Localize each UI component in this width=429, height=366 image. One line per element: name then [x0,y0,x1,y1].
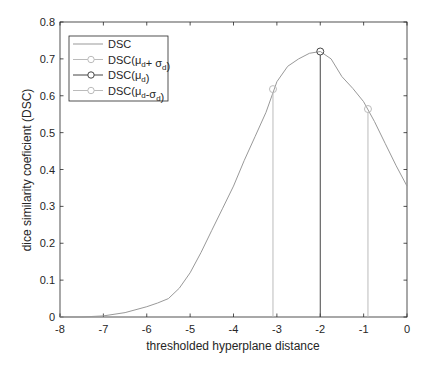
x-tick-label: 0 [404,323,410,335]
legend: DSCDSC(μd+ σd)DSC(μd)DSC(μd-σd) [69,36,170,103]
y-tick-label: 0.3 [40,200,55,212]
y-axis-label: dice similarity coeficient (DSC) [20,89,34,252]
y-tick-label: 0.6 [40,90,55,102]
y-tick-label: 0 [49,311,55,323]
y-tick-label: 0.7 [40,53,55,65]
legend-marker [88,87,94,93]
x-tick-label: -2 [315,323,325,335]
y-tick-label: 0.5 [40,127,55,139]
line-chart: -8-7-6-5-4-3-2-1000.10.20.30.40.50.60.70… [0,0,429,366]
x-tick-label: -8 [55,323,65,335]
legend-marker [88,56,94,62]
y-tick-label: 0.4 [40,164,55,176]
x-tick-label: -7 [98,323,108,335]
y-tick-label: 0.8 [40,16,55,28]
x-tick-label: -6 [142,323,152,335]
x-tick-label: -5 [185,323,195,335]
y-tick-label: 0.1 [40,274,55,286]
legend-marker [88,72,94,78]
x-tick-label: -1 [359,323,369,335]
x-tick-label: -4 [229,323,239,335]
x-tick-label: -3 [272,323,282,335]
x-axis-label: thresholded hyperplane distance [146,339,320,353]
y-tick-label: 0.2 [40,237,55,249]
legend-label: DSC [108,38,131,50]
